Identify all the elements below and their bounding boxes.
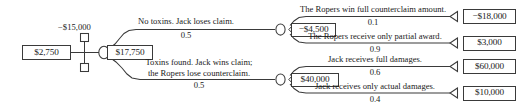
edge-label-ropers-partial: The Ropers receive only partial award. xyxy=(300,31,450,41)
arrowhead-jack-actual-damages xyxy=(450,88,458,98)
edge-label-toxins-found-line1: Toxins found. Jack wins claim; xyxy=(124,57,274,68)
arrowhead-ropers-partial xyxy=(450,38,458,48)
decision-node-lower-square xyxy=(81,64,89,72)
arrowhead-ropers-win-full xyxy=(450,12,458,22)
payoff-box-ropers-partial: $3,000 xyxy=(463,36,516,51)
edge-label-jack-actual-damages: Jack receives only actual damages. xyxy=(300,81,450,91)
decision-tree-diagram: $2,750 −$15,000 $17,750 −$4,500 $40,000 … xyxy=(0,0,524,109)
prob-label-no-toxins: 0.5 xyxy=(113,30,259,40)
chance-node-counterclaim-circle xyxy=(276,24,285,35)
decision-cost-label: −$15,000 xyxy=(58,22,91,32)
prob-label-ropers-win-full: 0.1 xyxy=(296,17,450,27)
payoff-box-jack-full-damages: $60,000 xyxy=(463,59,516,74)
edge-label-ropers-win-full: The Ropers win full counterclaim amount. xyxy=(296,4,450,14)
payoff-box-jack-actual-damages: $10,000 xyxy=(463,86,516,101)
edge-label-no-toxins: No toxins. Jack loses claim. xyxy=(113,16,259,26)
decision-node-upper-square xyxy=(81,34,89,42)
arrowhead-jack-full-damages xyxy=(450,62,458,72)
edge-label-toxins-found: Toxins found. Jack wins claim; the Roper… xyxy=(124,57,274,78)
edge-label-toxins-found-line2: the Ropers lose counterclaim. xyxy=(124,68,274,79)
edge-label-jack-full-damages: Jack receives full damages. xyxy=(300,54,450,64)
chance-node-damages-circle xyxy=(276,74,285,85)
prob-label-toxins-found: 0.5 xyxy=(124,80,274,90)
prob-label-jack-full-damages: 0.6 xyxy=(300,67,450,77)
root-value-text: $2,750 xyxy=(34,48,59,57)
root-value-box: $2,750 xyxy=(22,45,71,60)
chance-value-text: $17,750 xyxy=(115,48,144,57)
payoff-box-ropers-win-full: −$18,000 xyxy=(463,9,516,24)
prob-label-ropers-partial: 0.9 xyxy=(300,44,450,54)
prob-label-jack-actual-damages: 0.4 xyxy=(300,94,450,104)
